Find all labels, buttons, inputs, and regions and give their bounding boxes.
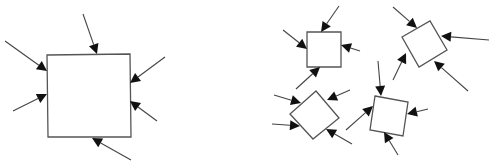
arrowhead-icon	[130, 101, 141, 111]
input-arrow-line	[417, 109, 428, 112]
input-arrow-line	[138, 107, 157, 121]
input-arrow-line	[13, 98, 38, 111]
input-arrow-line	[441, 68, 468, 91]
system-box-a	[47, 54, 131, 137]
system-box-b	[307, 32, 341, 67]
input-arrow-line	[327, 6, 339, 24]
input-arrow-line	[336, 90, 350, 96]
input-arrow-line	[138, 57, 165, 77]
arrowhead-icon	[375, 86, 385, 96]
input-arrow-line	[5, 41, 39, 65]
input-arrow-line	[335, 134, 352, 144]
input-arrow-line	[274, 95, 291, 100]
input-arrow-line	[393, 62, 402, 80]
system-box-e	[402, 21, 447, 67]
arrowhead-icon	[290, 95, 301, 105]
input-arrow-line	[296, 74, 313, 89]
arrowhead-icon	[36, 61, 47, 71]
input-arrow-line	[351, 48, 360, 51]
arrowhead-icon	[130, 73, 141, 83]
diagram-canvas	[0, 0, 494, 161]
input-arrow-line	[451, 37, 489, 40]
arrowhead-icon	[321, 21, 331, 32]
arrowhead-icon	[341, 43, 352, 53]
arrowhead-icon	[89, 43, 98, 54]
arrowhead-icon	[406, 18, 417, 28]
input-arrow-line	[389, 141, 398, 155]
arrowhead-icon	[92, 138, 103, 147]
arrowhead-icon	[441, 32, 451, 42]
input-arrow-line	[393, 7, 409, 21]
system-box-d	[370, 96, 408, 136]
panel-single-large-system	[5, 14, 165, 160]
input-arrow-line	[378, 61, 380, 86]
arrowhead-icon	[326, 129, 337, 138]
arrowhead-icon	[296, 39, 307, 49]
input-arrow-line	[346, 113, 366, 130]
panel-multiple-small-systems	[272, 6, 489, 155]
input-arrow-line	[83, 14, 94, 45]
input-arrow-line	[272, 124, 290, 125]
arrowhead-icon	[407, 107, 418, 117]
input-arrow-line	[283, 30, 299, 43]
input-arrow-line	[101, 143, 131, 160]
